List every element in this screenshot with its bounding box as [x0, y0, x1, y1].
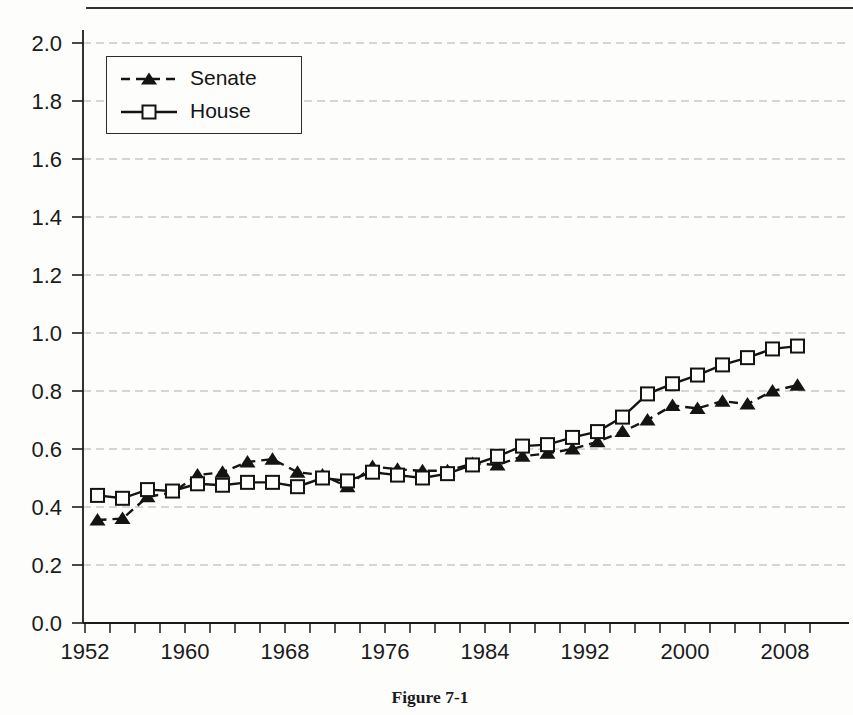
house-series	[91, 340, 804, 505]
senate-line	[98, 385, 798, 520]
house-square-marker	[516, 440, 529, 453]
house-square-marker	[616, 411, 629, 424]
legend-label-senate: Senate	[190, 67, 257, 90]
house-square-marker	[466, 458, 479, 471]
senate-dashed-triangle-icon	[120, 70, 178, 88]
legend: Senate House	[106, 56, 302, 134]
senate-triangle-marker	[715, 394, 731, 407]
x-tick-label: 2008	[761, 639, 810, 664]
house-square-marker	[116, 492, 129, 505]
house-square-marker	[641, 387, 654, 400]
house-square-marker	[266, 476, 279, 489]
house-square-marker	[341, 474, 354, 487]
y-tick-label: 0.2	[31, 553, 62, 578]
x-tick-label: 1968	[261, 639, 310, 664]
x-ticks: 19521960196819761984199220002008	[61, 623, 810, 664]
house-square-marker	[441, 467, 454, 480]
y-tick-label: 0.8	[31, 379, 62, 404]
figure-7-1: 0.00.20.40.60.81.01.21.41.61.82.01952196…	[0, 0, 853, 715]
y-tick-label: 1.8	[31, 89, 62, 114]
house-square-marker	[566, 431, 579, 444]
x-tick-label: 1992	[561, 639, 610, 664]
house-square-marker	[241, 476, 254, 489]
house-square-marker	[416, 472, 429, 485]
y-tick-label: 2.0	[31, 31, 62, 56]
house-solid-square-icon	[120, 103, 178, 121]
house-square-marker	[591, 425, 604, 438]
x-tick-label: 2000	[661, 639, 710, 664]
x-tick-label: 1960	[161, 639, 210, 664]
senate-triangle-marker	[615, 425, 631, 438]
senate-series	[90, 378, 806, 525]
x-tick-label: 1984	[461, 639, 510, 664]
y-ticks: 0.00.20.40.60.81.01.21.41.61.82.0	[31, 31, 83, 636]
house-square-marker	[691, 369, 704, 382]
senate-triangle-marker	[665, 399, 681, 412]
house-square-marker	[216, 479, 229, 492]
figure-caption: Figure 7-1	[0, 687, 853, 708]
y-tick-label: 0.4	[31, 495, 62, 520]
house-square-marker	[366, 466, 379, 479]
x-tick-label: 1952	[61, 639, 110, 664]
house-square-marker	[166, 485, 179, 498]
legend-item-senate: Senate	[120, 67, 301, 90]
y-tick-label: 0.0	[31, 611, 62, 636]
legend-item-house: House	[120, 100, 301, 123]
senate-triangle-marker	[790, 378, 806, 391]
senate-triangle-marker	[265, 452, 281, 465]
y-tick-label: 1.6	[31, 147, 62, 172]
y-tick-label: 1.4	[31, 205, 62, 230]
y-tick-label: 1.2	[31, 263, 62, 288]
senate-triangle-marker	[290, 465, 306, 478]
house-square-marker	[791, 340, 804, 353]
y-tick-label: 0.6	[31, 437, 62, 462]
house-square-marker	[316, 472, 329, 485]
y-tick-label: 1.0	[31, 321, 62, 346]
house-square-marker	[191, 477, 204, 490]
house-square-marker	[491, 450, 504, 463]
x-tick-label: 1976	[361, 639, 410, 664]
house-square-marker	[541, 438, 554, 451]
legend-label-house: House	[190, 100, 251, 123]
house-square-marker	[666, 377, 679, 390]
house-square-marker	[91, 489, 104, 502]
house-square-marker	[766, 342, 779, 355]
house-square-marker	[741, 351, 754, 364]
house-square-marker	[291, 480, 304, 493]
house-square-marker	[141, 483, 154, 496]
house-square-marker	[391, 469, 404, 482]
house-square-marker	[716, 358, 729, 371]
senate-triangle-marker	[215, 465, 231, 478]
senate-triangle-marker	[740, 397, 756, 410]
senate-triangle-marker	[640, 413, 656, 426]
